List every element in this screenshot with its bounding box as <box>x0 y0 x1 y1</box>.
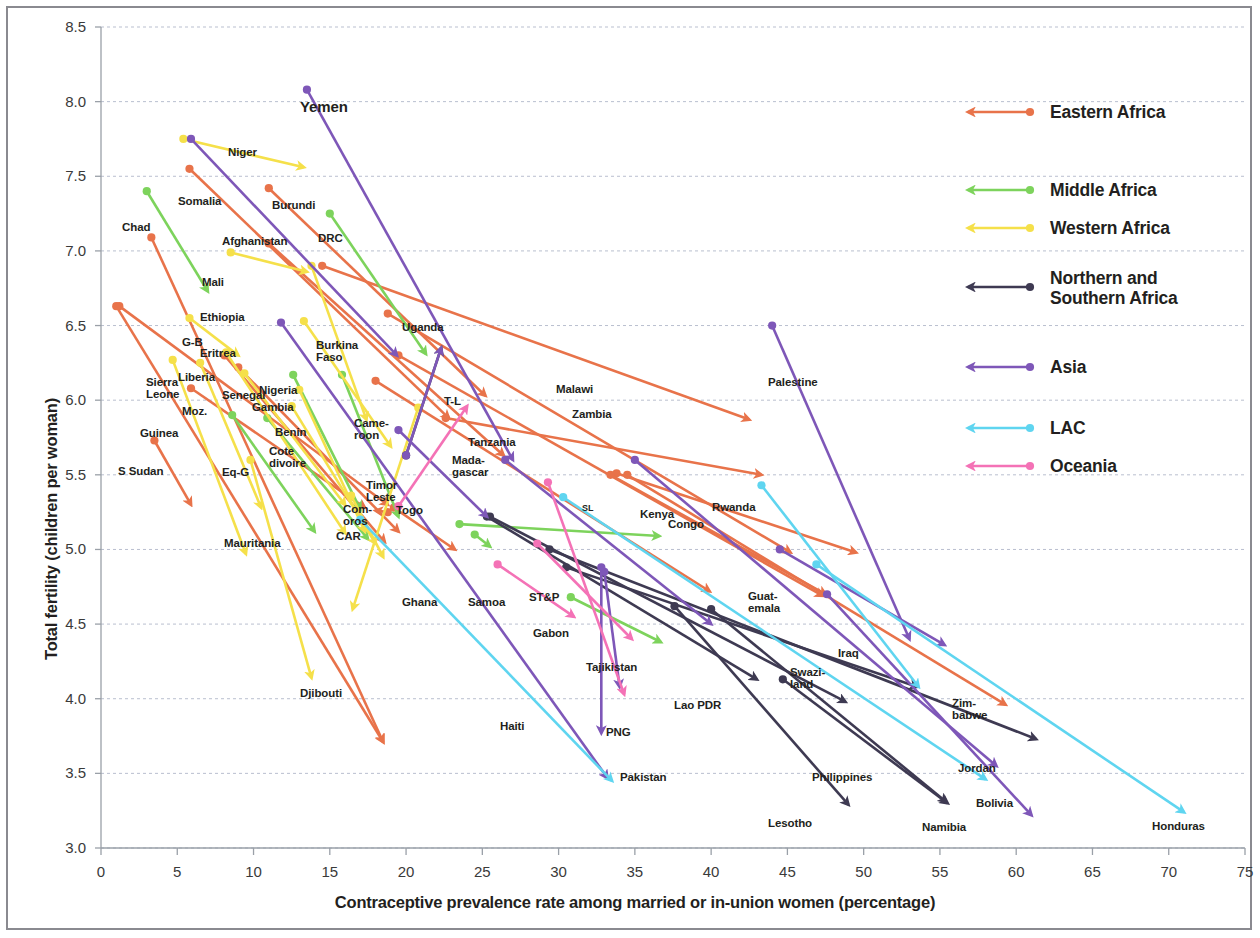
country-label: Rwanda <box>712 502 756 514</box>
country-label: Somalia <box>178 196 221 208</box>
country-start-point <box>768 321 776 329</box>
country-label: Togo <box>396 505 423 517</box>
country-arrow <box>231 252 307 271</box>
country-arrow <box>376 381 710 591</box>
y-tick-label: 3.5 <box>34 764 86 781</box>
country-start-point <box>240 369 248 377</box>
x-tick-label: 40 <box>691 863 731 880</box>
country-start-point <box>300 317 308 325</box>
country-label: DRC <box>318 233 343 245</box>
country-start-point <box>486 513 494 521</box>
legend-label: Western Africa <box>1050 218 1170 238</box>
country-label: Gabon <box>533 628 569 640</box>
legend-swatch <box>960 359 1038 375</box>
country-start-point <box>265 184 273 192</box>
x-tick-label: 60 <box>996 863 1036 880</box>
country-label: CAR <box>336 531 361 543</box>
x-tick-label: 50 <box>844 863 884 880</box>
country-arrow <box>189 169 448 418</box>
country-label: Mauritania <box>224 538 281 550</box>
country-start-point <box>559 493 567 501</box>
country-label: Eq-G <box>222 467 249 479</box>
country-label: Philippines <box>812 772 872 784</box>
country-start-point <box>631 456 639 464</box>
country-label: Com-oros <box>343 504 372 527</box>
country-start-point <box>757 481 765 489</box>
legend-swatch <box>960 458 1038 474</box>
country-arrow <box>571 597 661 642</box>
country-start-point <box>623 471 631 479</box>
country-start-point <box>227 248 235 256</box>
country-label: Liberia <box>178 372 215 384</box>
x-tick-label: 30 <box>539 863 579 880</box>
country-label: Cotedivoire <box>269 446 306 469</box>
country-label: Palestine <box>768 377 818 389</box>
legend-label: LAC <box>1050 418 1085 438</box>
country-label: Jordan <box>958 763 996 775</box>
country-start-point <box>143 187 151 195</box>
country-label: PNG <box>606 727 631 739</box>
legend-swatch <box>960 220 1038 236</box>
country-start-point <box>277 318 285 326</box>
country-start-point <box>471 530 479 538</box>
country-label: Tajikistan <box>586 662 637 674</box>
country-start-point <box>384 310 392 318</box>
y-tick-label: 6.0 <box>34 391 86 408</box>
country-start-point <box>185 165 193 173</box>
country-start-point <box>196 359 204 367</box>
country-label: Yemen <box>300 99 348 114</box>
country-start-point <box>112 302 120 310</box>
country-label: Pakistan <box>620 772 667 784</box>
country-label: Swazi-land <box>790 667 825 690</box>
country-start-point <box>371 377 379 385</box>
country-label: Ghana <box>402 597 437 609</box>
country-label: T-L <box>444 396 461 408</box>
country-label: Uganda <box>402 322 444 334</box>
country-label: S Sudan <box>118 466 163 478</box>
country-label: G-B <box>182 337 203 349</box>
country-start-point <box>823 590 831 598</box>
country-label: Mali <box>202 277 224 289</box>
country-label: Haiti <box>500 721 524 733</box>
y-tick-label: 5.5 <box>34 466 86 483</box>
country-start-point <box>347 492 355 500</box>
x-tick-label: 10 <box>234 863 274 880</box>
legend-label: Oceania <box>1050 456 1117 476</box>
legend-label: Northern andSouthern Africa <box>1050 268 1178 308</box>
country-start-point <box>597 563 605 571</box>
country-start-point <box>606 471 614 479</box>
country-label: Lesotho <box>768 818 812 830</box>
country-label: Ethiopia <box>200 312 245 324</box>
country-label: Gambia <box>252 402 294 414</box>
country-label: Afghanistan <box>222 236 287 248</box>
y-tick-label: 4.5 <box>34 615 86 632</box>
legend-label: Asia <box>1050 357 1086 377</box>
x-tick-label: 20 <box>386 863 426 880</box>
x-tick-label: 45 <box>767 863 807 880</box>
country-start-point <box>533 539 541 547</box>
country-label: Came-roon <box>354 418 389 441</box>
country-arrow <box>269 188 486 395</box>
country-label: Guinea <box>140 428 178 440</box>
country-label: ST&P <box>529 592 559 604</box>
country-start-point <box>246 456 254 464</box>
y-tick-label: 3.0 <box>34 839 86 856</box>
country-label: Niger <box>228 147 257 159</box>
country-start-point <box>179 135 187 143</box>
country-label: Burundi <box>272 200 315 212</box>
legend-swatch <box>960 420 1038 436</box>
legend-label: Eastern Africa <box>1050 102 1165 122</box>
country-label: Malawi <box>556 384 593 396</box>
legend-label: Middle Africa <box>1050 180 1157 200</box>
country-label: Congo <box>668 519 704 531</box>
x-tick-label: 70 <box>1149 863 1189 880</box>
country-start-point <box>501 456 509 464</box>
country-label: BurkinaFaso <box>316 340 358 363</box>
country-start-point <box>289 371 297 379</box>
country-start-point <box>147 233 155 241</box>
country-start-point <box>544 478 552 486</box>
x-tick-label: 0 <box>81 863 121 880</box>
y-tick-label: 7.0 <box>34 242 86 259</box>
legend-swatch <box>960 279 1038 295</box>
country-start-point <box>779 675 787 683</box>
